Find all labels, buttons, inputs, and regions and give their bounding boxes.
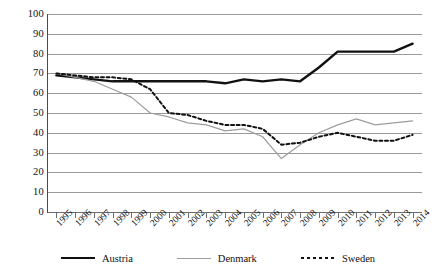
- legend-item-denmark[interactable]: Denmark: [177, 253, 257, 264]
- chart-legend: Austria Denmark Sweden: [0, 248, 436, 268]
- legend-label-sweden: Sweden: [342, 253, 375, 264]
- legend-item-austria[interactable]: Austria: [61, 253, 133, 264]
- series-line-sweden: [56, 73, 412, 144]
- line-chart: 1009080706050403020100 19951996199719981…: [0, 0, 436, 273]
- legend-swatch-austria-icon: [61, 257, 95, 259]
- legend-label-austria: Austria: [102, 253, 133, 264]
- legend-item-sweden[interactable]: Sweden: [301, 253, 375, 264]
- legend-swatch-sweden-icon: [301, 257, 335, 259]
- series-line-denmark: [56, 73, 412, 158]
- series-layer: [0, 0, 436, 273]
- legend-swatch-denmark-icon: [177, 258, 211, 259]
- legend-label-denmark: Denmark: [218, 253, 257, 264]
